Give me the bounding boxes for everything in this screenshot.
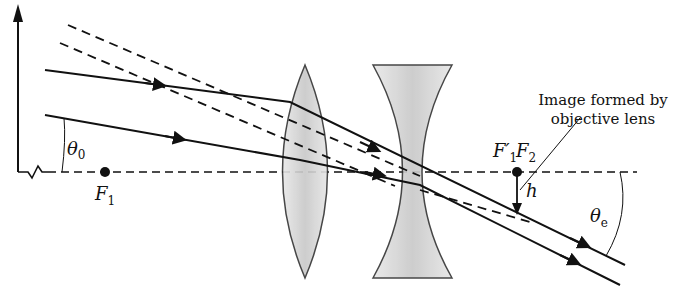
f1prime-label: F′1 — [492, 140, 517, 165]
annotation-line-2: objective lens — [530, 110, 676, 129]
telescope-diagram: θ0 F1 F′1 F2 h θe — [0, 0, 676, 290]
h-label: h — [526, 180, 538, 201]
distant-object-arrow — [13, 4, 48, 178]
axis-break-symbol — [18, 166, 48, 178]
image-annotation: Image formed by objective lens — [530, 91, 676, 129]
theta-0-angle-arc — [62, 118, 65, 172]
image-arrow-h — [512, 172, 522, 215]
theta-e-label: θe — [590, 205, 608, 230]
theta-0-label: θ0 — [67, 138, 85, 162]
f1-label: F1 — [94, 183, 115, 208]
focal-point-f1 — [100, 167, 110, 177]
theta-e-angle-arc — [606, 172, 623, 256]
dashed-extension-upper — [68, 25, 420, 176]
f2-label: F2 — [515, 140, 536, 165]
annotation-line-1: Image formed by — [530, 91, 676, 110]
converging-objective-lens — [283, 65, 328, 278]
dashed-extension-lower — [60, 43, 395, 186]
